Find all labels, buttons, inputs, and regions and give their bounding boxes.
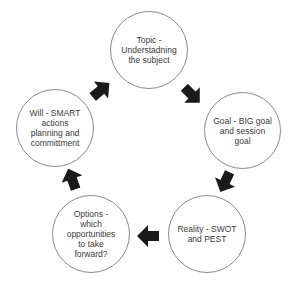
node-reality: Reality - SWOT and PEST (168, 195, 246, 273)
arrow-topic-to-goal-icon (176, 79, 207, 110)
node-reality-label: Reality - SWOT and PEST (177, 224, 236, 244)
arrow-goal-to-reality-icon (210, 167, 239, 196)
node-will-label: Will - SMART actions planning and commit… (30, 108, 81, 148)
node-will: Will - SMART actions planning and commit… (16, 89, 94, 167)
node-goal-label: Goal - BIG goal and session goal (213, 116, 272, 146)
node-options-label: Options - which opportunities to take fo… (67, 209, 116, 259)
arrow-options-to-will-icon (58, 165, 86, 193)
node-goal: Goal - BIG goal and session goal (204, 92, 281, 169)
node-topic: Topic - Understadning the subject (110, 11, 188, 89)
arrow-reality-to-options-icon (137, 225, 159, 247)
node-topic-label: Topic - Understadning the subject (121, 35, 176, 65)
arrow-will-to-topic-icon (86, 75, 117, 106)
node-options: Options - which opportunities to take fo… (52, 195, 130, 273)
